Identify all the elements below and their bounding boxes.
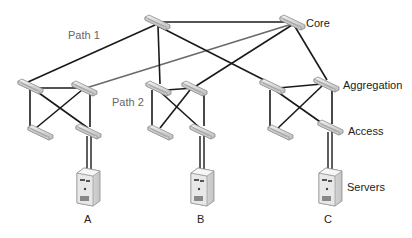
access-switch-right-1 [268, 125, 293, 140]
access-switch-left-2 [76, 124, 101, 139]
server-b-label: B [197, 213, 204, 225]
agg-switch-right-1 [260, 79, 285, 94]
core-layer-label: Core [306, 17, 330, 29]
path1-label: Path 1 [68, 29, 100, 41]
server-a-icon [77, 168, 100, 206]
server-a-label: A [84, 213, 91, 225]
network-diagram [0, 0, 412, 238]
servers-layer-label: Servers [347, 181, 385, 193]
server-c-icon [319, 168, 342, 206]
access-switch-middle-2 [190, 124, 215, 139]
access-switch-right-2 [318, 120, 343, 135]
path2-label: Path 2 [112, 96, 144, 108]
server-b-icon [191, 168, 214, 206]
access-layer-label: Access [348, 125, 383, 137]
access-switch-left-1 [28, 125, 53, 140]
server-c-label: C [324, 213, 332, 225]
aggregation-layer-label: Aggregation [343, 79, 402, 91]
agg-switch-middle-1 [146, 81, 171, 96]
pod-middle-links [152, 88, 204, 128]
